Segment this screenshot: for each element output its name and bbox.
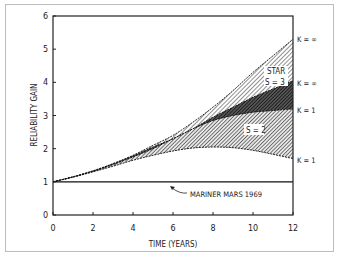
y-axis-ticks: 0123456 [43, 12, 56, 220]
k-inf-label-s3: K = ∞ [297, 35, 317, 44]
x-tick-label: 6 [170, 224, 175, 233]
y-axis-label: RELIABILITY GAIN [30, 84, 39, 147]
mariner-label: MARINER MARS 1969 [190, 190, 262, 199]
s3-label: S = 3 [265, 78, 285, 87]
y-tick-label: 4 [43, 78, 48, 87]
x-tick-label: 10 [248, 224, 258, 233]
k-one-label-s2: K = 1 [297, 156, 316, 165]
mariner-arrow [172, 188, 187, 193]
k-inf-label-s2: K = ∞ [297, 79, 317, 88]
k-one-label-s3: K = 1 [297, 106, 316, 115]
y-tick-label: 2 [43, 145, 48, 154]
x-axis-label: TIME (YEARS) [148, 240, 198, 249]
x-tick-label: 4 [130, 224, 135, 233]
y-tick-label: 5 [43, 45, 48, 54]
s2-label: S = 2 [246, 126, 266, 135]
x-tick-label: 12 [288, 224, 298, 233]
x-tick-label: 0 [50, 224, 55, 233]
shaded-bands [53, 39, 293, 182]
y-tick-label: 3 [43, 112, 48, 121]
curve-line [53, 147, 293, 182]
star-label: STAR [267, 67, 285, 76]
reliability-chart: 0123456 024681012 STAR S = 3 S = 2 MARIN… [0, 0, 340, 262]
y-tick-label: 1 [43, 178, 48, 187]
y-tick-label: 6 [43, 12, 48, 21]
x-tick-label: 8 [210, 224, 215, 233]
x-tick-label: 2 [90, 224, 95, 233]
y-tick-label: 0 [43, 211, 48, 220]
